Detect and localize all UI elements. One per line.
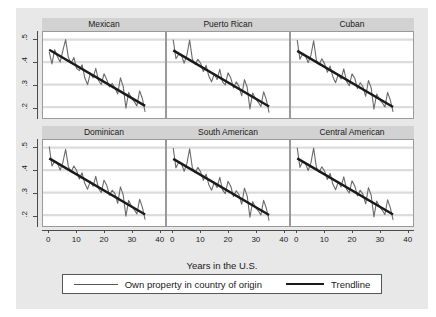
- panel-plot-area: [290, 31, 414, 119]
- x-tick-label: 30: [370, 235, 390, 244]
- y-tick-mark: [33, 85, 37, 86]
- x-tick-label: 10: [190, 235, 210, 244]
- x-tick-mark: [296, 230, 297, 233]
- y-tick-label: .2: [20, 207, 29, 221]
- x-tick-mark: [160, 230, 161, 233]
- x-tick-label: 20: [342, 235, 362, 244]
- panel-title: Mexican: [42, 18, 166, 31]
- panel-central-american: Central American: [290, 126, 414, 227]
- y-tick-mark: [33, 216, 37, 217]
- y-tick-label: .4: [20, 161, 29, 175]
- x-tick-mark: [104, 230, 105, 233]
- figure-plate: MexicanPuerto RicanCubanDominicanSouth A…: [16, 8, 428, 309]
- x-tick-label: 20: [218, 235, 238, 244]
- y-tick-label: .3: [20, 76, 29, 90]
- panel-plot-area: [290, 139, 414, 227]
- panel-cuban: Cuban: [290, 18, 414, 119]
- x-tick-mark: [76, 230, 77, 233]
- x-tick-mark: [228, 230, 229, 233]
- x-tick-mark: [132, 230, 133, 233]
- y-tick-mark: [33, 39, 37, 40]
- panel-mexican: Mexican: [42, 18, 166, 119]
- x-tick-mark: [324, 230, 325, 233]
- y-tick-label: .2: [20, 99, 29, 113]
- x-tick-label: 0: [38, 235, 58, 244]
- panel-dominican: Dominican: [42, 126, 166, 227]
- x-tick-mark: [284, 230, 285, 233]
- legend: Own property in country of origin Trendl…: [62, 274, 382, 294]
- panel-plot-area: [42, 139, 166, 227]
- y-axis-line: [37, 139, 38, 227]
- y-tick-mark: [33, 170, 37, 171]
- panel-title: Central American: [290, 126, 414, 139]
- x-tick-label: 0: [162, 235, 182, 244]
- figure-canvas: MexicanPuerto RicanCubanDominicanSouth A…: [0, 0, 436, 317]
- panel-title: Puerto Rican: [166, 18, 290, 31]
- y-tick-mark: [33, 147, 37, 148]
- panel-south-american: South American: [166, 126, 290, 227]
- series-line-swatch-icon: [74, 284, 118, 285]
- x-tick-mark: [48, 230, 49, 233]
- panel-plot-area: [42, 31, 166, 119]
- y-tick-mark: [33, 193, 37, 194]
- x-tick-mark: [352, 230, 353, 233]
- x-tick-label: 20: [94, 235, 114, 244]
- x-tick-mark: [200, 230, 201, 233]
- legend-series-label: Own property in country of origin: [125, 279, 262, 290]
- panel-plot-area: [166, 139, 290, 227]
- y-tick-label: .5: [20, 138, 29, 152]
- x-tick-label: 30: [122, 235, 142, 244]
- y-tick-mark: [33, 62, 37, 63]
- y-tick-label: .4: [20, 53, 29, 67]
- x-tick-mark: [256, 230, 257, 233]
- x-tick-label: 40: [398, 235, 418, 244]
- x-tick-mark: [408, 230, 409, 233]
- x-tick-label: 10: [314, 235, 334, 244]
- panel-title: Dominican: [42, 126, 166, 139]
- x-tick-label: 0: [286, 235, 306, 244]
- y-tick-label: .3: [20, 184, 29, 198]
- panel-title: South American: [166, 126, 290, 139]
- y-tick-mark: [33, 108, 37, 109]
- y-axis-line: [37, 31, 38, 119]
- y-tick-label: .5: [20, 30, 29, 44]
- x-tick-mark: [172, 230, 173, 233]
- x-axis-title: Years in the U.S.: [16, 260, 428, 271]
- panel-plot-area: [166, 31, 290, 119]
- legend-trend-label: Trendline: [331, 279, 370, 290]
- trendline-swatch-icon: [286, 283, 324, 285]
- x-tick-mark: [380, 230, 381, 233]
- panel-puerto-rican: Puerto Rican: [166, 18, 290, 119]
- x-tick-label: 30: [246, 235, 266, 244]
- x-tick-label: 10: [66, 235, 86, 244]
- panel-title: Cuban: [290, 18, 414, 31]
